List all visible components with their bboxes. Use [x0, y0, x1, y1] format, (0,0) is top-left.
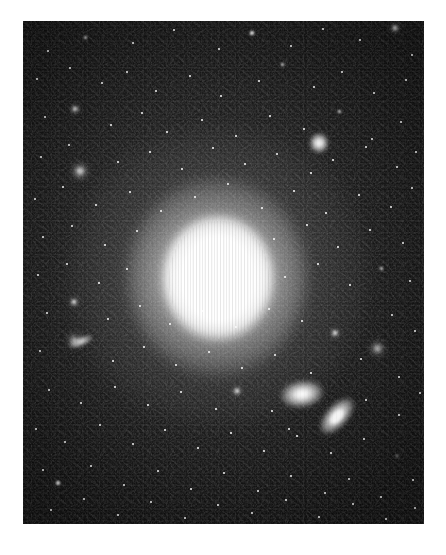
central-elliptical-galaxy-core	[181, 235, 255, 323]
photographic-plate	[23, 21, 424, 524]
astronomical-image-page	[0, 0, 446, 555]
